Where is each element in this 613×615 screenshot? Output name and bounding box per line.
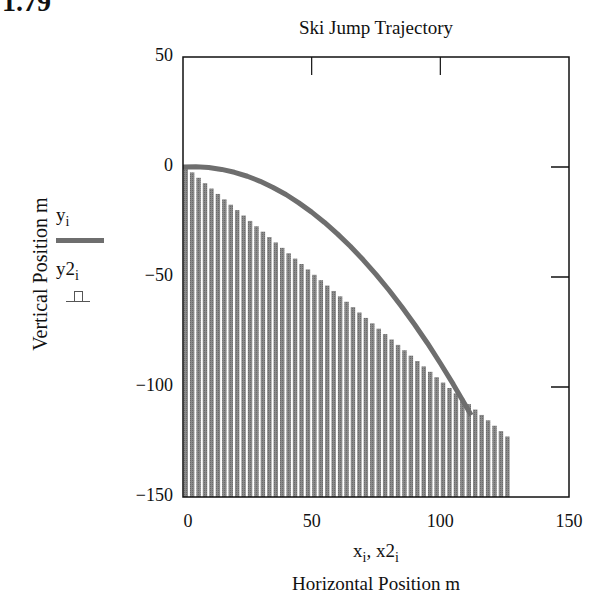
bar-y2 xyxy=(241,216,245,497)
bar-y2 xyxy=(286,253,290,497)
x-axis-variables: xi, x2i xyxy=(183,540,569,566)
bar-y2 xyxy=(325,286,329,497)
bar-y2 xyxy=(274,242,278,497)
bar-y2 xyxy=(460,399,464,497)
bar-y2 xyxy=(383,334,387,497)
bar-y2 xyxy=(203,183,207,497)
bar-y2 xyxy=(209,189,213,497)
bar-y2 xyxy=(190,172,194,497)
bar-y2 xyxy=(434,377,438,497)
y-tick-label: −100 xyxy=(113,375,173,396)
x-axis-label: Horizontal Position m xyxy=(183,573,569,595)
bar-y2 xyxy=(222,199,226,497)
x-tick-label: 150 xyxy=(539,511,599,532)
x-tick-label: 100 xyxy=(410,511,470,532)
bar-y2 xyxy=(370,323,374,497)
bar-y2 xyxy=(377,329,381,497)
bar-y2 xyxy=(428,372,432,497)
bar-y2 xyxy=(196,178,200,497)
bar-y2 xyxy=(467,404,471,497)
bar-y2 xyxy=(454,393,458,497)
bar-y2 xyxy=(235,210,239,497)
bar-y2 xyxy=(306,269,310,497)
bar-y2 xyxy=(441,383,445,497)
bar-y2 xyxy=(312,275,316,497)
bar-y2 xyxy=(216,194,220,497)
bar-y2 xyxy=(415,361,419,497)
bar-y2 xyxy=(364,318,368,497)
bar-y2 xyxy=(499,431,503,497)
bar-y2 xyxy=(261,232,265,497)
bar-y2 xyxy=(254,226,258,497)
y-tick-label: −50 xyxy=(113,265,173,286)
bar-y2 xyxy=(402,350,406,497)
bar-y2 xyxy=(184,167,188,497)
x-tick-label: 0 xyxy=(158,511,218,532)
bar-y2 xyxy=(248,221,252,497)
bar-y2 xyxy=(319,280,323,497)
bar-y2 xyxy=(409,356,413,497)
bar-y2 xyxy=(396,345,400,497)
bar-y2 xyxy=(293,259,297,497)
bar-y2 xyxy=(486,420,490,497)
x-tick-label: 50 xyxy=(282,511,342,532)
bar-y2 xyxy=(492,426,496,497)
bar-y2 xyxy=(344,302,348,497)
bar-y2 xyxy=(505,437,509,498)
bar-y2 xyxy=(299,264,303,497)
bar-y2 xyxy=(447,388,451,497)
y-tick-label: 50 xyxy=(113,45,173,66)
bar-y2 xyxy=(331,291,335,497)
y-tick-label: −150 xyxy=(113,485,173,506)
bar-y2 xyxy=(351,307,355,497)
bar-y2 xyxy=(357,313,361,497)
y-tick-label: 0 xyxy=(113,155,173,176)
bar-y2 xyxy=(338,296,342,497)
bar-y2 xyxy=(389,339,393,497)
bar-y2 xyxy=(473,410,477,497)
bar-y2 xyxy=(422,366,426,497)
bar-y2 xyxy=(267,237,271,497)
bar-y2 xyxy=(280,248,284,497)
bar-y2 xyxy=(479,415,483,497)
bar-y2 xyxy=(229,205,233,497)
